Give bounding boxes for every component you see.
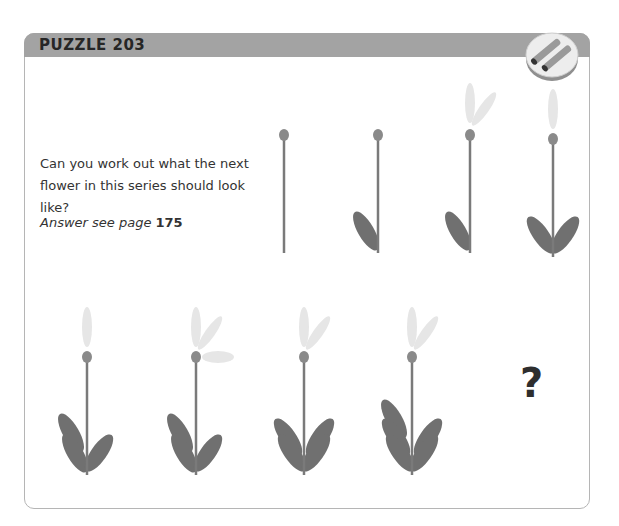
flower-5 [53,307,118,476]
unknown-flower-marker: ? [520,360,543,406]
flower-4 [522,89,584,258]
flower-8 [376,307,447,476]
flower-1 [279,129,289,253]
flower-3 [440,83,499,254]
flower-2 [348,129,384,254]
flower-7 [269,307,339,476]
flower-6 [162,307,234,476]
flower-series [0,0,619,526]
